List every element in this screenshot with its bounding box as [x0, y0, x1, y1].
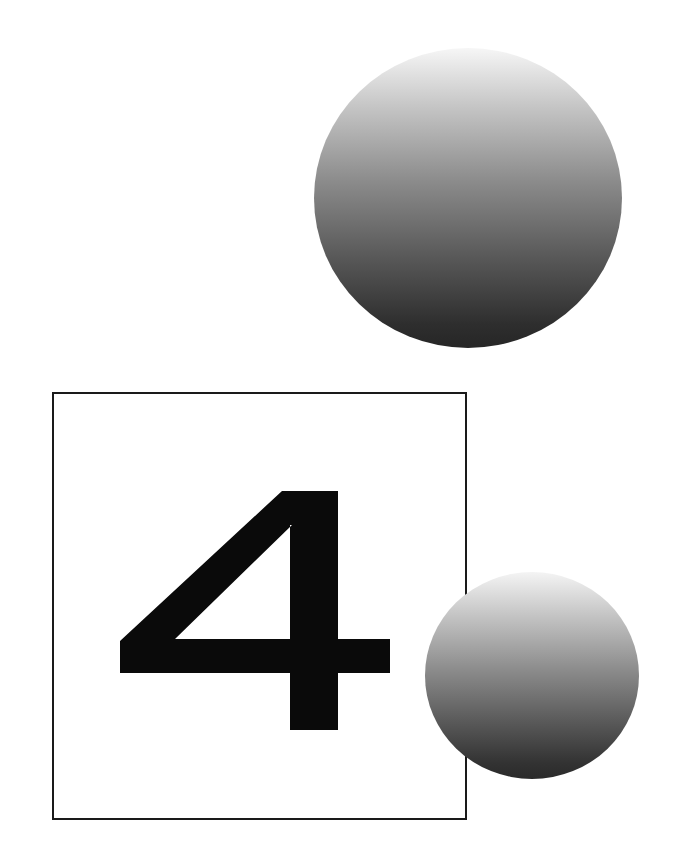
large-gradient-sphere: [314, 48, 622, 348]
numeral-frame: 4: [52, 392, 467, 820]
numeral-text: 4: [54, 394, 55, 395]
small-gradient-sphere: [425, 572, 639, 779]
